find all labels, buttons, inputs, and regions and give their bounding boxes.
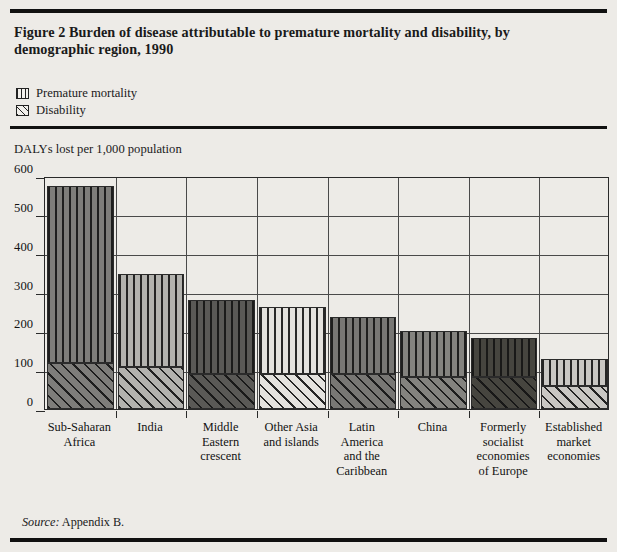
- legend-label: Premature mortality: [36, 87, 137, 100]
- bar-segment-disability: [259, 374, 326, 409]
- category-separator: [398, 178, 399, 409]
- bar-7: [471, 338, 538, 409]
- category-separator: [257, 178, 258, 409]
- y-axis-tick-label: 300: [0, 279, 33, 294]
- source-label: Source:: [22, 515, 59, 529]
- category-separator: [469, 178, 470, 409]
- y-axis-tick-label: 600: [0, 162, 33, 177]
- bar-1: [47, 186, 114, 409]
- category-separator: [116, 178, 117, 409]
- figure-page: Figure 2 Burden of disease attributable …: [0, 0, 617, 552]
- bar-segment-disability: [188, 374, 255, 409]
- source-note: Source: Appendix B.: [22, 515, 124, 530]
- bar-segment-disability: [330, 374, 397, 409]
- source-text: Appendix B.: [62, 515, 124, 529]
- y-axis-tick-label: 500: [0, 201, 33, 216]
- bar-2: [118, 274, 185, 409]
- x-axis-tick: [398, 411, 399, 418]
- middle-rule: [10, 126, 607, 129]
- bar-4: [259, 307, 326, 409]
- bar-8: [541, 359, 608, 409]
- x-axis-tick: [539, 411, 540, 418]
- bar-segment-premature-mortality: [330, 317, 397, 373]
- y-axis-tick-label: 200: [0, 317, 33, 332]
- x-axis-category-label: Established market economies: [528, 420, 617, 464]
- y-axis-tick: [36, 294, 45, 295]
- y-axis-tick-label: 400: [0, 240, 33, 255]
- bar-segment-premature-mortality: [188, 300, 255, 375]
- figure-title: Figure 2 Burden of disease attributable …: [14, 24, 584, 58]
- bar-3: [188, 300, 255, 410]
- y-axis-tick: [36, 255, 45, 256]
- y-axis-tick-label: 0: [0, 395, 33, 410]
- y-axis-tick-label: 100: [0, 356, 33, 371]
- legend-label: Disability: [36, 104, 86, 117]
- x-axis-tick: [186, 411, 187, 418]
- top-rule: [10, 9, 607, 13]
- x-axis-tick: [257, 411, 258, 418]
- legend-item-premature-mortality: Premature mortality: [16, 86, 137, 101]
- y-axis-tick: [36, 372, 45, 373]
- gridline: [45, 255, 608, 256]
- chart-legend: Premature mortality Disability: [16, 86, 137, 120]
- x-axis-tick: [469, 411, 470, 418]
- bar-segment-disability: [118, 367, 185, 409]
- category-separator: [186, 178, 187, 409]
- bar-segment-premature-mortality: [118, 274, 185, 367]
- bar-segment-premature-mortality: [471, 338, 538, 377]
- y-axis-tick: [36, 178, 45, 179]
- plot-area: 0100200300400500600: [44, 177, 609, 410]
- x-axis-tick: [116, 411, 117, 418]
- bar-segment-premature-mortality: [259, 307, 326, 374]
- x-axis-tick: [328, 411, 329, 418]
- bar-6: [400, 331, 467, 409]
- bar-segment-premature-mortality: [400, 331, 467, 377]
- bar-segment-disability: [471, 377, 538, 409]
- y-axis-tick: [36, 216, 45, 217]
- gridline: [45, 216, 608, 217]
- bottom-rule: [10, 538, 607, 542]
- category-separator: [328, 178, 329, 409]
- legend-item-disability: Disability: [16, 103, 137, 118]
- bar-5: [330, 317, 397, 409]
- bar-segment-disability: [541, 386, 608, 409]
- bar-segment-premature-mortality: [541, 359, 608, 386]
- y-axis-title: DALYs lost per 1,000 population: [14, 142, 182, 157]
- y-axis-tick: [36, 411, 45, 412]
- vertical-hatch-swatch-icon: [16, 88, 29, 99]
- category-separator: [539, 178, 540, 409]
- diagonal-hatch-swatch-icon: [16, 105, 29, 116]
- bar-segment-disability: [47, 363, 114, 409]
- y-axis-tick: [36, 333, 45, 334]
- bar-segment-premature-mortality: [47, 186, 114, 363]
- bar-segment-disability: [400, 377, 467, 409]
